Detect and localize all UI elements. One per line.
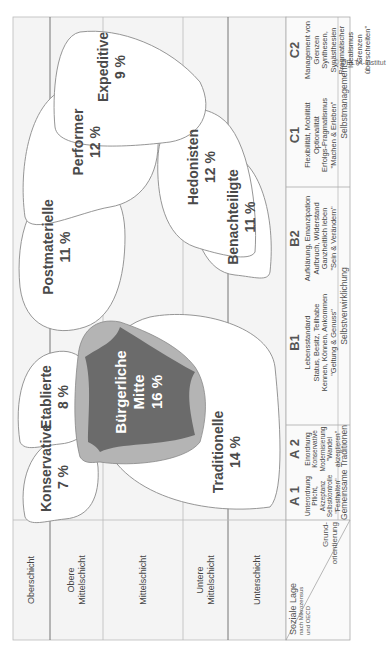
column-a2: A 2 Einordnung Konservative Modernisieru… — [288, 425, 341, 473]
milieu-expeditive: Expeditive 9 % — [95, 22, 129, 112]
milieu-buergerliche-mitte: Bürgerliche Mitte 16 % — [112, 337, 166, 447]
row-label-unterschicht: Unterschicht — [228, 520, 286, 640]
corner-soziale-lage: Soziale Lage nach Mikrozensus und OECD — [288, 555, 311, 635]
milieu-etablierte: Etablierte 8 % — [38, 357, 72, 437]
group-selbstverwirklichung: Selbstverwirklichung — [339, 187, 349, 425]
column-c1: C1 Flexibilität, Mobilität Optionalität … — [288, 85, 338, 185]
column-c2: C2 Management von Grenzen Synthesen, Syn… — [288, 15, 373, 85]
row-label-mittelschicht: Mittelschicht — [103, 520, 183, 640]
group-selbstmanagement: Selbstmanagement — [339, 17, 349, 187]
corner-title: Soziale Lage — [288, 555, 298, 635]
milieu-postmaterielle: Postmaterielle 11 % — [40, 192, 74, 302]
milieu-konservative: Konservative 7 % — [38, 442, 72, 512]
group-gemeinsame-traditionen: Gemeinsame Traditionen — [339, 425, 349, 520]
column-b1: B1 Lebensstandard Status, Besitz, Teilha… — [288, 290, 338, 395]
milieu-traditionelle: Traditionelle 14 % — [210, 397, 244, 507]
row-label-untere-mittelschicht: Untere Mittelschicht — [183, 520, 228, 640]
corner-grundorientierung: Grund-orientierung — [322, 522, 340, 572]
milieu-hedonisten: Hedonisten 12 % — [185, 117, 219, 217]
column-b2: B2 Aufklärung, Emanzipation Aufbruch, Wi… — [288, 187, 338, 290]
column-a1: A 1 Unterordnung Pflicht, Akzeptanz Selb… — [288, 472, 341, 520]
row-label-obere-mittelschicht: Obere Mittelschicht — [50, 520, 103, 640]
row-label-oberschicht: Oberschicht — [13, 520, 50, 640]
corner-subtitle: nach Mikrozensus und OECD — [298, 585, 311, 635]
milieu-benachteiligte: Benachteiligte 11 % — [225, 157, 259, 277]
